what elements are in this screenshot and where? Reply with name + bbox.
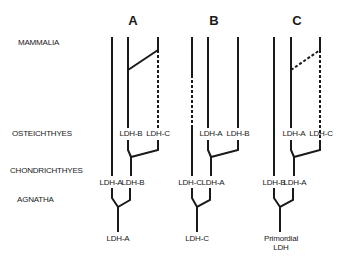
tree-a-upper-right-label: LDH-C	[146, 129, 169, 138]
tree-c-upper-right-label: LDH-C	[309, 129, 332, 138]
tree-c-mid-right-label: LDH-A	[283, 178, 306, 187]
tree-c-mid-left-label: LDH-B	[262, 178, 285, 187]
tree-b-root-label: LDH-C	[185, 234, 208, 243]
tree-c-root-label-line2: LDH	[273, 243, 288, 252]
tree-b-upper-right-label: LDH-B	[226, 129, 249, 138]
tree-c-upper-left-label: LDH-A	[282, 129, 305, 138]
tree-b-mid-left-label: LDH-C	[178, 178, 201, 187]
tree-a-upper-left-label: LDH-B	[119, 129, 142, 138]
tree-c-root-label-line1: Primordial	[264, 234, 298, 243]
tree-b-upper-left-label: LDH-A	[199, 129, 222, 138]
tree-b-mid-right-label: LDH-A	[201, 178, 224, 187]
tree-a-mid-left-label: LDH-A	[99, 178, 122, 187]
tree-a-root-label: LDH-A	[106, 234, 129, 243]
tree-a-mid-right-label: LDH-B	[121, 178, 144, 187]
